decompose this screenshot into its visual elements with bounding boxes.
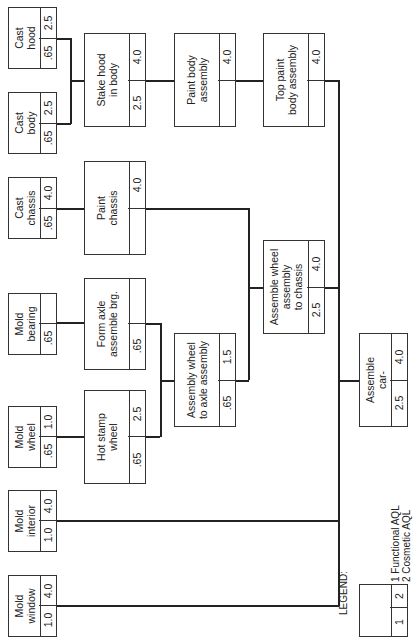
connector: [325, 80, 339, 82]
connector: [57, 322, 84, 324]
node-assemble-wheel-chassis: Assemble wheel assembly to chassis 4.0 2…: [263, 240, 325, 334]
node-label: Cast hood: [12, 26, 36, 49]
node-paint-body: Paint body assembly 4.0: [174, 33, 236, 127]
legend-box: 2 1: [359, 584, 408, 637]
functional-aql: .65: [130, 452, 142, 467]
functional-aql: .65: [41, 215, 53, 230]
connector: [57, 208, 84, 210]
connector: [146, 208, 249, 210]
node-label: Mold wheel: [12, 423, 36, 450]
node-stake-hood: Stake hood in body 4.0 2.5: [84, 33, 146, 127]
connector: [57, 436, 84, 438]
node-paint-chassis: Paint chassis 4.0: [84, 161, 146, 255]
functional-aql: .65: [41, 444, 53, 459]
functional-aql: .65: [220, 395, 232, 410]
cosmetic-aql: 4.0: [309, 257, 321, 272]
functional-aql: 2.5: [309, 302, 321, 317]
node-label: Mold window: [12, 588, 36, 623]
cosmetic-aql: 4.0: [392, 350, 404, 365]
cosmetic-aql: 2.5: [41, 16, 53, 31]
legend-cell-1: 1: [392, 619, 404, 625]
legend-title: LEGEND:: [338, 571, 349, 615]
node-mold-wheel: Mold wheel 1.0 .65: [8, 406, 57, 468]
cosmetic-aql: 4.0: [130, 178, 142, 193]
cosmetic-aql: 4.0: [130, 50, 142, 65]
functional-aql: 2.5: [130, 95, 142, 110]
connector: [146, 323, 160, 325]
legend-title-text: LEGEND:: [338, 571, 349, 615]
functional-aql: .65: [130, 339, 142, 354]
functional-aql: .65: [41, 45, 53, 60]
node-label: Hot stamp wheel: [95, 413, 119, 461]
node-label: Assembly wheel to axle assembly: [185, 341, 209, 419]
legend-item-text: 2 Cosmetic AQL: [401, 510, 412, 582]
node-top-paint: Top paint body assembly 4.0: [263, 33, 325, 127]
functional-aql: 2.5: [392, 395, 404, 410]
cosmetic-aql: 4.0: [309, 50, 321, 65]
cosmetic-aql: 1.5: [220, 350, 232, 365]
node-cast-chassis: Cast chassis 4.0 .65: [8, 177, 57, 239]
node-label: Stake hood in body: [95, 53, 119, 106]
cosmetic-aql: 2.5: [130, 406, 142, 421]
node-form-axle: Form axle assemble brg. .65: [84, 278, 146, 370]
legend-item-text: 1 Functional AQL: [390, 505, 401, 582]
legend-cell-2: 2: [392, 593, 404, 599]
node-mold-interior: Mold interior 4.0 1.0: [8, 490, 57, 552]
connector: [248, 208, 250, 380]
functional-aql: 1.0: [41, 528, 53, 543]
connector: [236, 80, 263, 82]
connector: [57, 38, 71, 40]
node-cast-hood: Cast hood 2.5 .65: [8, 7, 57, 69]
node-label: Mold interior: [12, 505, 36, 537]
connector: [146, 436, 160, 438]
legend-item-functional: 1 Functional AQL: [390, 505, 402, 582]
connector: [57, 123, 71, 125]
cosmetic-aql: 1.0: [41, 414, 53, 429]
functional-aql: .65: [41, 331, 53, 346]
functional-aql: 1.0: [41, 613, 53, 628]
connector: [236, 380, 249, 382]
cosmetic-aql: 2.5: [41, 101, 53, 116]
connector: [248, 287, 263, 289]
functional-aql: .65: [41, 130, 53, 145]
node-label: Mold bearing: [12, 306, 36, 341]
node-label: Paint body assembly: [185, 55, 209, 105]
node-mold-window: Mold window 4.0 1.0: [8, 575, 57, 637]
node-label: Paint chassis: [95, 190, 119, 225]
cosmetic-aql: 4.0: [41, 186, 53, 201]
connector: [70, 80, 84, 82]
legend-item-cosmetic: 2 Cosmetic AQL: [401, 510, 413, 582]
node-assembly-wheel-axle: Assembly wheel to axle assembly 1.5 .65: [174, 333, 236, 427]
node-label: Assemble car-: [363, 357, 387, 403]
node-assemble-car: Assemble car- 4.0 2.5: [359, 333, 408, 427]
node-label: Cast chassis: [12, 190, 36, 225]
connector: [146, 80, 174, 82]
node-cast-body: Cast body 2.5 .65: [8, 92, 57, 154]
node-mold-bearing: Mold bearing .65: [8, 293, 57, 355]
connector: [57, 605, 339, 607]
cosmetic-aql: 4.0: [41, 583, 53, 598]
node-hot-stamp: Hot stamp wheel 2.5 .65: [84, 390, 146, 484]
connector: [57, 520, 339, 522]
node-label: Form axle assemble brg.: [95, 291, 119, 357]
connector: [160, 380, 174, 382]
trunk-line: [338, 80, 340, 606]
node-label: Cast body: [12, 112, 36, 135]
node-label: Assemble wheel assembly to chassis: [268, 249, 304, 325]
cosmetic-aql: 4.0: [41, 498, 53, 513]
connector: [325, 287, 339, 289]
node-label: Top paint body assembly: [274, 45, 298, 115]
connector: [339, 380, 359, 382]
cosmetic-aql: 4.0: [220, 50, 232, 65]
